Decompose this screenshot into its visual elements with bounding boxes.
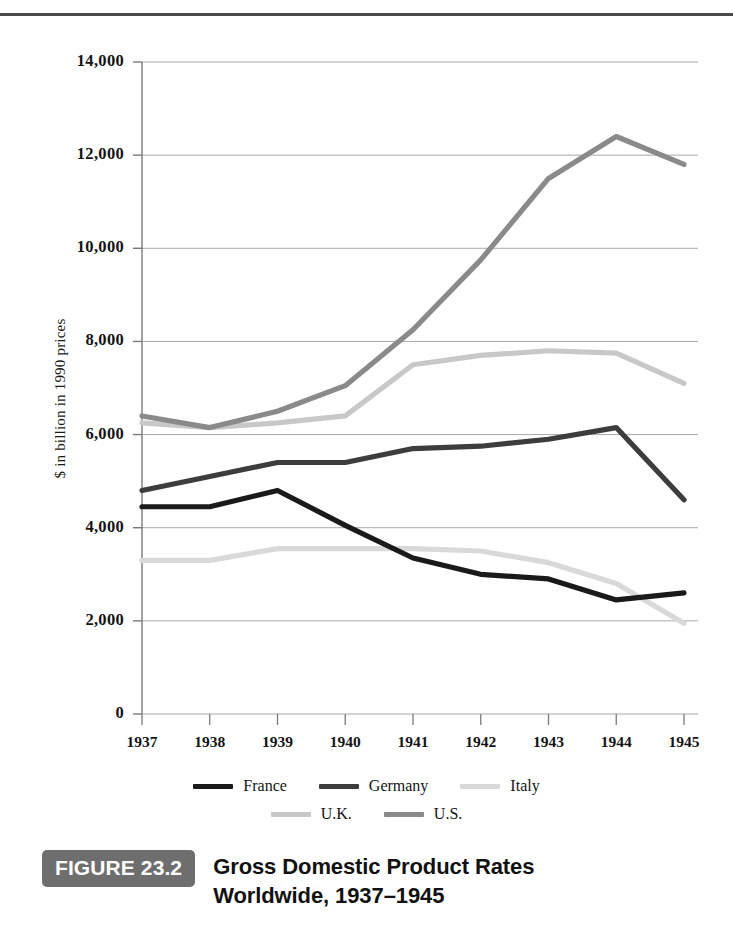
x-axis-tick-label-1941: 1941 (382, 733, 444, 751)
axes-group (133, 62, 142, 714)
x-axis-tick-label-1940: 1940 (314, 733, 376, 751)
y-axis-tick-label: 6,000 (42, 424, 124, 444)
x-axis-tick-label-1945: 1945 (653, 733, 715, 751)
x-axis-tick-label-1939: 1939 (247, 733, 309, 751)
legend-label: Italy (510, 777, 539, 795)
x-axis-tick-label-1938: 1938 (179, 733, 241, 751)
caption-line-2: Worldwide, 1937–1945 (213, 881, 534, 910)
x-axis-tick-label-1937: 1937 (111, 733, 173, 751)
series-line-uk (142, 351, 684, 428)
figure-container: $ in billion in 1990 prices 02,0004,0006… (0, 0, 733, 926)
legend-item-france[interactable]: France (193, 777, 287, 795)
figure-number-badge: FIGURE 23.2 (42, 850, 195, 887)
legend-swatch-icon (460, 784, 500, 789)
legend-swatch-icon (193, 784, 233, 789)
x-axis-tick-label-1943: 1943 (518, 733, 580, 751)
legend-label: U.S. (434, 805, 462, 823)
legend-label: France (243, 777, 287, 795)
x-axis-ticks-group (142, 714, 684, 725)
legend-label: Germany (369, 777, 429, 795)
chart-plot-area: $ in billion in 1990 prices 02,0004,0006… (0, 0, 733, 760)
y-axis-tick-label: 0 (42, 703, 124, 723)
y-axis-tick-label: 8,000 (42, 330, 124, 350)
legend-row-secondary: U.K.U.S. (0, 800, 733, 828)
caption-line-1: Gross Domestic Product Rates (213, 852, 534, 881)
legend-item-us[interactable]: U.S. (384, 805, 462, 823)
series-line-france (142, 490, 684, 599)
series-line-us (142, 137, 684, 428)
x-axis-tick-label-1942: 1942 (450, 733, 512, 751)
legend-item-germany[interactable]: Germany (319, 777, 429, 795)
figure-caption: FIGURE 23.2 Gross Domestic Product Rates… (42, 850, 702, 910)
legend-swatch-icon (271, 812, 311, 817)
y-axis-tick-label: 14,000 (42, 51, 124, 71)
y-axis-tick-label: 4,000 (42, 517, 124, 537)
chart-legend: FranceGermanyItaly U.K.U.S. (0, 772, 733, 828)
legend-swatch-icon (319, 784, 359, 789)
legend-item-italy[interactable]: Italy (460, 777, 539, 795)
x-axis-tick-label-1944: 1944 (585, 733, 647, 751)
legend-label: U.K. (321, 805, 352, 823)
figure-caption-text: Gross Domestic Product Rates Worldwide, … (213, 850, 534, 910)
y-axis-tick-label: 2,000 (42, 610, 124, 630)
series-line-germany (142, 428, 684, 500)
gridlines-group (142, 62, 698, 714)
legend-item-uk[interactable]: U.K. (271, 805, 352, 823)
data-series-group (142, 137, 684, 624)
y-axis-title: $ in billion in 1990 prices (52, 269, 69, 529)
legend-row-primary: FranceGermanyItaly (0, 772, 733, 800)
line-chart-svg (0, 0, 733, 760)
y-axis-tick-label: 10,000 (42, 237, 124, 257)
legend-swatch-icon (384, 812, 424, 817)
y-axis-tick-label: 12,000 (42, 144, 124, 164)
